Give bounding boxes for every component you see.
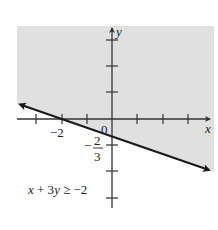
svg-text:2: 2 [94,133,101,148]
origin-label: 0 [101,122,108,137]
x-intercept-label: −2 [50,125,64,140]
svg-text:−: − [84,138,91,153]
y-axis-label: y [114,24,122,39]
shaded-solution-region [17,26,214,172]
svg-text:3: 3 [94,149,101,164]
x-axis-label: x [204,121,211,136]
inequality-label: x + 3y ≥ −2 [27,182,87,197]
y-intercept-fraction: − 2 3 [84,133,103,164]
inequality-graph: y x 0 −2 − 2 3 x + 3y ≥ −2 [0,0,218,230]
